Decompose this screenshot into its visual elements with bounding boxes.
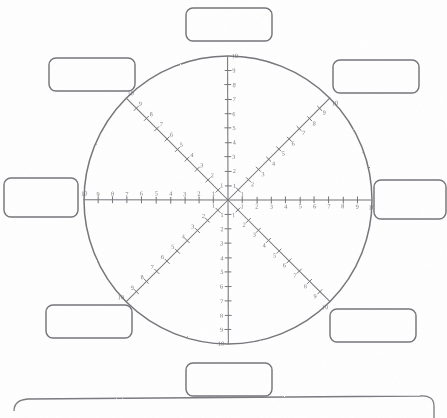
scale-number: 2	[202, 212, 206, 219]
footer-panel	[14, 396, 434, 418]
scale-number: 4	[284, 203, 288, 210]
scale-number: 8	[220, 312, 223, 319]
scale-number: 3	[253, 231, 256, 238]
scale-number-max: 10	[81, 189, 88, 196]
scale-number: 8	[312, 119, 316, 126]
scale-number: 3	[270, 203, 273, 210]
scale-number: 8	[341, 202, 344, 209]
scale-number: 9	[139, 100, 142, 107]
scale-number: 6	[291, 140, 295, 147]
scale-number-max: 10	[322, 303, 329, 310]
scale-number: 5	[220, 268, 224, 275]
scale-number: 9	[355, 203, 358, 210]
scale-number: 9	[322, 108, 326, 115]
scale-number: 9	[131, 284, 134, 291]
scale-number: 1	[241, 202, 244, 209]
footer-panel-edge	[14, 396, 434, 418]
box-bottom[interactable]	[186, 363, 272, 396]
scale-number: 4	[169, 190, 172, 197]
spoke-layer	[84, 56, 372, 344]
scale-number: 5	[180, 141, 183, 148]
scale-number: 1	[212, 190, 215, 197]
scale-number: 7	[151, 263, 154, 270]
box-left[interactable]	[4, 178, 78, 217]
scale-number: 7	[233, 95, 237, 102]
scale-number: 2	[211, 171, 214, 178]
scale-number-max: 10	[332, 99, 339, 106]
scale-number: 5	[282, 149, 285, 156]
worksheet-page: 1234567891012345678910123456789101234567…	[0, 0, 447, 418]
scale-number: 4	[182, 233, 185, 240]
scale-number: 6	[161, 253, 164, 260]
wheel-diagram: 1234567891012345678910123456789101234567…	[0, 0, 447, 418]
scale-number: 6	[283, 261, 286, 268]
box-right[interactable]	[374, 180, 446, 219]
scale-number: 1	[220, 181, 223, 188]
scale-number: 4	[190, 151, 193, 158]
scale-number: 7	[220, 297, 224, 304]
scale-number-max: 10	[218, 340, 224, 347]
scale-number: 6	[220, 282, 223, 289]
scale-number: 3	[200, 161, 203, 168]
label-box-layer	[4, 8, 446, 396]
scale-number-max: 10	[232, 52, 239, 59]
scale-number: 7	[160, 120, 163, 127]
scale-number: 3	[183, 190, 186, 197]
scale-number: 5	[171, 243, 174, 250]
scale-number: 1	[212, 202, 216, 209]
scale-number: 1	[232, 211, 236, 218]
scale-number: 9	[220, 326, 223, 333]
scale-number: 4	[262, 241, 266, 248]
scale-number: 5	[155, 190, 158, 197]
scale-number-max: 10	[118, 293, 125, 300]
scale-number: 3	[232, 153, 235, 160]
scale-number: 8	[304, 282, 307, 289]
scale-number: 2	[251, 180, 254, 187]
scale-number: 2	[197, 190, 200, 197]
scale-number: 5	[273, 252, 276, 259]
scale-number: 7	[293, 272, 297, 279]
box-top[interactable]	[186, 8, 272, 41]
scale-number: 7	[328, 202, 331, 209]
scale-number: 1	[220, 211, 223, 218]
box-lower-left[interactable]	[46, 305, 132, 338]
scale-number: 8	[140, 273, 144, 280]
scale-number: 5	[299, 202, 302, 209]
scale-number: 7	[302, 129, 306, 136]
scale-number: 9	[97, 190, 100, 197]
scale-number: 3	[220, 239, 223, 246]
scale-number: 6	[140, 190, 143, 197]
scale-number: 4	[272, 160, 275, 167]
scale-number: 7	[125, 190, 128, 197]
scale-number: 2	[220, 225, 223, 232]
scale-number: 2	[255, 202, 258, 209]
scale-number: 4	[220, 254, 223, 261]
scale-number: 8	[149, 110, 152, 117]
scale-number: 2	[233, 167, 236, 174]
scale-number: 4	[232, 138, 235, 145]
scale-number: 2	[243, 221, 247, 228]
scale-number: 3	[261, 170, 265, 177]
scale-number: 1	[233, 182, 236, 189]
scale-number: 8	[232, 81, 236, 88]
scale-number: 6	[232, 110, 235, 117]
scale-number: 9	[232, 66, 236, 73]
scale-number: 5	[232, 124, 235, 131]
box-upper-right[interactable]	[333, 60, 419, 93]
box-lower-right[interactable]	[330, 309, 416, 342]
scale-number: 3	[191, 223, 194, 230]
scale-number: 8	[111, 190, 114, 197]
box-upper-left[interactable]	[49, 58, 135, 91]
scale-number: 6	[313, 202, 316, 209]
scale-number: 6	[170, 131, 174, 138]
scale-number: 9	[314, 292, 317, 299]
scale-number: 1	[241, 190, 244, 197]
